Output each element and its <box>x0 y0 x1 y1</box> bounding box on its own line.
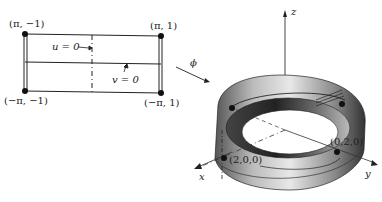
corner-label-bl: (−π, −1) <box>4 95 48 106</box>
band-dot-back-right <box>339 101 345 107</box>
x-axis-label: x <box>199 171 205 182</box>
phi-label: ϕ <box>190 57 197 68</box>
band-dot-back-left <box>229 105 235 111</box>
point-y-label: (0,2,0) <box>330 136 363 147</box>
band-surface <box>215 75 365 190</box>
point-x-dot <box>221 155 227 161</box>
parameter-rectangle <box>24 34 162 93</box>
u-zero-label: u = 0 <box>52 41 80 52</box>
corner-dot-tl <box>22 31 28 37</box>
z-axis-label: z <box>291 6 296 17</box>
v-zero-line <box>25 62 161 64</box>
mapping-arrow <box>176 67 210 83</box>
diagram-canvas <box>0 0 382 202</box>
point-x-label: (2,0,0) <box>229 154 262 165</box>
corner-dot-tr <box>158 33 164 39</box>
corner-dot-br <box>158 90 164 96</box>
corner-label-br: (−π, 1) <box>144 97 179 108</box>
corner-label-tl: (π, −1) <box>9 18 44 29</box>
y-axis-label: y <box>365 168 371 179</box>
corner-dot-bl <box>22 88 28 94</box>
corner-label-tr: (π, 1) <box>150 20 177 31</box>
v-zero-label: v = 0 <box>112 74 139 85</box>
point-y-dot <box>334 149 340 155</box>
